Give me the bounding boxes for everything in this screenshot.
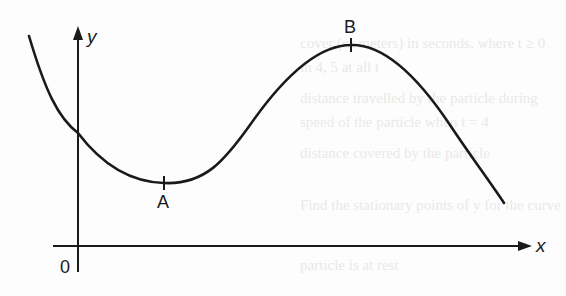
bleed-through-text: cover (or meters) in seconds, where t ≥ … (300, 35, 561, 273)
y-axis-arrowhead-icon (73, 26, 83, 40)
svg-text:particle is at rest: particle is at rest (300, 257, 400, 273)
svg-text:speed of the particle when t =: speed of the particle when t = 4 (300, 114, 489, 130)
function-graph-figure: cover (or meters) in seconds, where t ≥ … (0, 0, 566, 296)
origin-label: 0 (60, 257, 70, 277)
svg-text:cover (or meters) in seconds,: cover (or meters) in seconds, where t ≥ … (300, 35, 545, 52)
svg-text:in 4, 5 at all t: in 4, 5 at all t (300, 59, 380, 75)
svg-text:distance travelled by the part: distance travelled by the particle durin… (300, 90, 538, 106)
y-axis (73, 26, 83, 272)
y-axis-label: y (85, 26, 98, 47)
svg-text:Find the stationary points of: Find the stationary points of y for the … (300, 197, 561, 213)
x-axis-arrowhead-icon (518, 241, 532, 251)
point-b-label: B (344, 17, 356, 37)
graph-canvas: cover (or meters) in seconds, where t ≥ … (0, 0, 566, 296)
svg-text:distance covered by the partic: distance covered by the particle (300, 145, 490, 161)
point-a-label: A (157, 192, 169, 212)
x-axis-label: x (535, 235, 547, 256)
x-axis (53, 241, 532, 251)
